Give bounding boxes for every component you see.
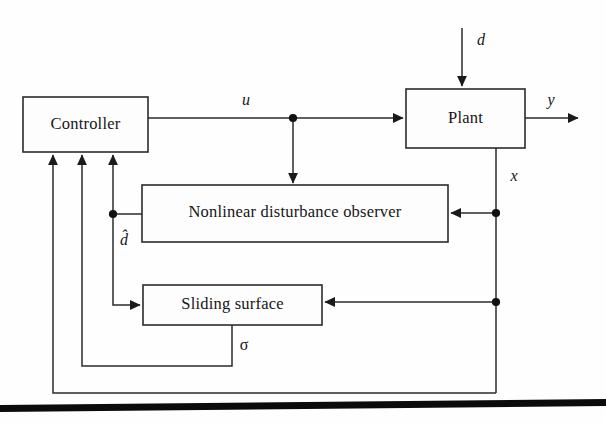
signal-label-u: u <box>242 91 250 108</box>
junction-dot-dhat <box>109 210 117 218</box>
junction-dot-x-sliding-surface <box>492 298 500 306</box>
junction-dot-u <box>289 114 297 122</box>
block-sliding-surface-label: Sliding surface <box>181 294 283 313</box>
wire-dhat-to-sliding-surface <box>113 214 140 305</box>
junction-dot-x-observer <box>492 209 500 217</box>
signal-label-y: y <box>545 91 555 109</box>
block-diagram-figure: Controller Plant Nonlinear disturbance o… <box>0 0 606 423</box>
diagram-canvas: Controller Plant Nonlinear disturbance o… <box>0 0 606 423</box>
block-controller-label: Controller <box>51 114 121 133</box>
signal-label-d-hat: d̂ <box>120 229 129 247</box>
page-bottom-rule <box>0 399 606 412</box>
block-observer-label: Nonlinear disturbance observer <box>188 202 401 221</box>
signal-label-x: x <box>509 167 517 184</box>
signal-label-d: d <box>477 31 486 48</box>
signal-label-sigma: σ <box>240 336 249 353</box>
block-plant-label: Plant <box>448 108 483 127</box>
